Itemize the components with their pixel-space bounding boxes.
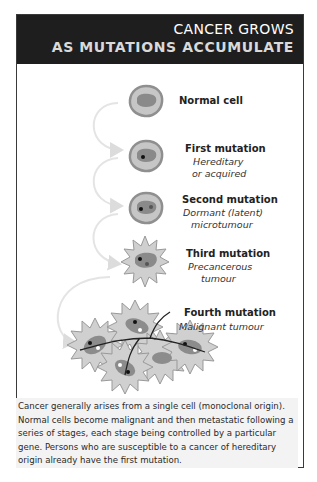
caption-box: Cancer generally arises from a single ce… — [16, 398, 298, 468]
stage-sub-first-mutation-2: or acquired — [192, 168, 246, 180]
third-mutation-cell-icon — [121, 236, 169, 287]
stage-label-third-mutation: Third mutation — [186, 248, 270, 259]
second-mutation-cell-icon — [130, 193, 162, 223]
progression-arrows — [58, 103, 122, 342]
stage-label-fourth-mutation: Fourth mutation — [184, 307, 276, 318]
caption-text: Cancer generally arises from a single ce… — [16, 398, 298, 468]
stage-label-normal-cell: Normal cell — [179, 95, 243, 106]
stage-sub-first-mutation-1: Hereditary — [193, 156, 243, 168]
stage-sub-fourth-mutation-1: Malignant tumour — [179, 321, 264, 333]
stage-sub-second-mutation-1: Dormant (latent) — [183, 207, 263, 219]
normal-cell-icon — [130, 86, 162, 116]
stage-sub-second-mutation-2: microtumour — [191, 219, 253, 231]
stage-label-second-mutation: Second mutation — [182, 194, 278, 205]
stage-sub-third-mutation-1: Precancerous — [188, 261, 252, 273]
first-mutation-cell-icon — [130, 141, 162, 171]
stage-label-first-mutation: First mutation — [185, 143, 266, 154]
stage-sub-third-mutation-2: tumour — [201, 273, 236, 285]
